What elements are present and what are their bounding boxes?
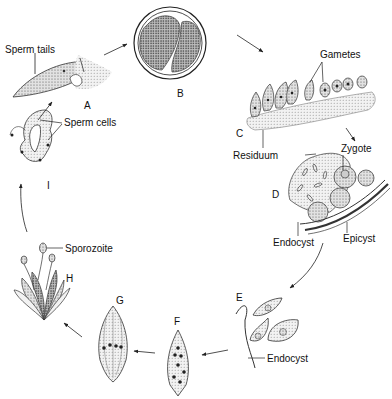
label-zygote: Zygote bbox=[341, 143, 372, 154]
label-endocyst-d: Endocyst bbox=[273, 237, 314, 248]
label-sperm-cells: Sperm cells bbox=[64, 117, 116, 128]
stage-h-illustration bbox=[14, 243, 70, 320]
stage-letter-a: A bbox=[84, 100, 91, 111]
stage-i-illustration bbox=[10, 110, 52, 162]
label-sporozoite: Sporozoite bbox=[65, 243, 113, 254]
stage-letter-b: B bbox=[177, 88, 184, 99]
stage-letter-e: E bbox=[236, 292, 243, 303]
stage-letter-h: H bbox=[66, 273, 73, 284]
stage-letter-g: G bbox=[116, 295, 124, 306]
stage-c-illustration bbox=[247, 76, 375, 130]
stage-f-illustration bbox=[168, 330, 189, 396]
label-sperm-tails: Sperm tails bbox=[5, 44, 55, 55]
label-endocyst-e: Endocyst bbox=[267, 353, 308, 364]
stage-letter-c: C bbox=[236, 128, 243, 139]
life-cycle-diagram: A B C D E F G H I Sperm tails Gametes Re… bbox=[0, 0, 392, 399]
label-residuum: Residuum bbox=[233, 150, 278, 161]
stage-b-illustration bbox=[134, 7, 206, 79]
stage-letter-f: F bbox=[174, 316, 180, 327]
stage-a-illustration bbox=[13, 55, 112, 97]
stage-letter-i: I bbox=[47, 180, 50, 191]
label-gametes: Gametes bbox=[320, 49, 361, 60]
stage-g-illustration bbox=[99, 306, 127, 382]
stage-d-illustration bbox=[289, 153, 390, 234]
label-epicyst: Epicyst bbox=[343, 233, 375, 244]
stage-letter-d: D bbox=[272, 189, 279, 200]
